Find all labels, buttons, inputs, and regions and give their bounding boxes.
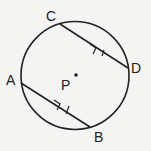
label-a: A — [6, 72, 16, 88]
label-c: C — [46, 8, 56, 24]
chord-ab — [21, 83, 90, 127]
label-d: D — [131, 60, 141, 76]
label-b: B — [94, 129, 103, 145]
circle-diagram: C D A B P — [0, 0, 151, 151]
label-p: P — [61, 77, 70, 93]
parallel-arrow-icon — [90, 44, 96, 54]
center-point — [74, 73, 78, 77]
